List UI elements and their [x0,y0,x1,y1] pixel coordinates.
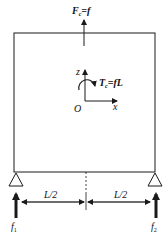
moment-arc-arrow-icon [79,80,95,90]
torque-label: Tc=fL [99,77,123,89]
right-support-triangle-icon [148,173,162,186]
body-rectangle [14,33,155,172]
dimension-right-label: L/2 [113,189,127,200]
x-axis-label: x [112,101,118,112]
left-support-triangle-icon [9,173,23,186]
dimension-left-label: L/2 [43,189,57,200]
reaction-left-label: f1 [11,221,17,233]
origin-label: O [74,103,81,114]
z-axis-label: z [75,66,80,77]
free-body-diagram: Fc=f z x O Tc=fL L/2 L/2 f1 f2 [0,0,168,233]
reaction-right-label: f2 [151,221,157,233]
top-force-label: Fc=f [71,5,92,17]
